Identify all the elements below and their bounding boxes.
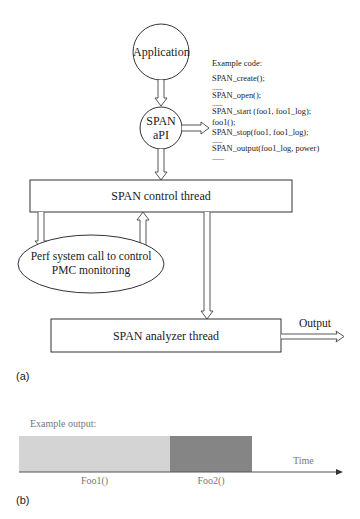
arrow-api-to-code [182, 122, 209, 134]
control-thread-label: SPAN control thread [30, 189, 292, 203]
example-code-block: Example code: SPAN_create(); ....... SPA… [212, 59, 319, 161]
panel-b-label: (b) [16, 494, 29, 506]
arrow-app-to-api [155, 80, 167, 106]
code-line: SPAN_stop(foo1, foo1_log); [212, 128, 319, 138]
code-line: SPAN_open(); [212, 91, 319, 101]
code-ellipsis: ........ [212, 155, 319, 161]
foo1-segment [19, 436, 170, 472]
application-label: Application [133, 45, 189, 59]
code-line: SPAN_output(foo1_log, power) [212, 144, 319, 154]
code-line: SPAN_create(); [212, 74, 319, 84]
foo2-segment [170, 436, 252, 472]
arrow-api-to-control [155, 149, 167, 180]
analyzer-thread-label: SPAN analyzer thread [51, 329, 281, 343]
arrow-control-to-analyzer [201, 212, 213, 319]
span-api-label-line1: SPAN [140, 114, 182, 128]
foo1-label: Foo1() [19, 475, 170, 486]
output-label: Output [295, 316, 335, 330]
example-code-title: Example code: [212, 59, 319, 69]
timeline-title: Example output: [30, 418, 96, 429]
output-arrow [281, 331, 344, 342]
perf-label: Perf system call to control PMC monitori… [20, 249, 162, 277]
perf-label-line2: PMC monitoring [20, 263, 162, 277]
span-api-label: SPAN aPI [140, 114, 182, 142]
time-axis-arrowhead-icon [336, 469, 343, 475]
perf-label-line1: Perf system call to control [20, 249, 162, 263]
time-axis-label: Time [293, 455, 314, 466]
panel-a-label: (a) [16, 370, 29, 382]
span-api-label-line2: aPI [140, 128, 182, 142]
code-line: foo1(); [212, 118, 319, 128]
code-line: SPAN_start (foo1, foo1_log); [212, 107, 319, 117]
foo2-label: Foo2() [170, 475, 252, 486]
